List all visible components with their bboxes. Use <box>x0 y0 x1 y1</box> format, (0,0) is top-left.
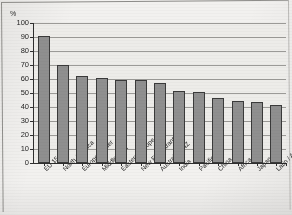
y-axis-tick <box>30 149 34 150</box>
y-axis-tick-label: 70 <box>21 61 29 69</box>
y-axis-tick <box>30 51 34 52</box>
y-axis-tick-label: 60 <box>21 75 29 83</box>
bar[interactable] <box>96 78 108 163</box>
bar[interactable] <box>57 65 69 163</box>
bar[interactable] <box>251 102 263 163</box>
y-axis-tick <box>30 121 34 122</box>
bar[interactable] <box>154 83 166 164</box>
y-axis-tick <box>30 23 34 24</box>
y-axis-tick-label: 40 <box>21 103 29 111</box>
y-axis-tick-label: 0 <box>25 159 29 167</box>
bar[interactable] <box>212 98 224 163</box>
bar[interactable] <box>76 76 88 163</box>
bar[interactable] <box>135 80 147 163</box>
y-axis-unit-label: % <box>10 10 16 17</box>
plot-area: 0102030405060708090100EU 15North America… <box>33 23 286 164</box>
bar-chart: % 0102030405060708090100EU 15North Ameri… <box>0 0 292 215</box>
y-axis-tick <box>30 107 34 108</box>
bar[interactable] <box>38 36 50 163</box>
gridline <box>34 37 286 38</box>
bar[interactable] <box>115 80 127 163</box>
y-axis-tick <box>30 79 34 80</box>
y-axis-tick-label: 20 <box>21 131 29 139</box>
y-axis-tick <box>30 37 34 38</box>
x-axis-tick <box>286 163 287 166</box>
gridline <box>34 23 286 24</box>
y-axis-tick-label: 100 <box>16 19 29 27</box>
y-axis-tick-label: 10 <box>21 145 29 153</box>
bar[interactable] <box>193 92 205 163</box>
y-axis-tick <box>30 135 34 136</box>
gridline <box>34 51 286 52</box>
y-axis-tick <box>30 163 34 164</box>
bar[interactable] <box>173 91 185 163</box>
gridline <box>34 65 286 66</box>
y-axis-tick-label: 30 <box>21 117 29 125</box>
bar[interactable] <box>232 101 244 163</box>
gridline <box>34 79 286 80</box>
y-axis-tick <box>30 93 34 94</box>
y-axis-tick-label: 50 <box>21 89 29 97</box>
y-axis-tick-label: 80 <box>21 47 29 55</box>
y-axis-tick <box>30 65 34 66</box>
y-axis-tick-label: 90 <box>21 33 29 41</box>
bar[interactable] <box>270 105 282 163</box>
